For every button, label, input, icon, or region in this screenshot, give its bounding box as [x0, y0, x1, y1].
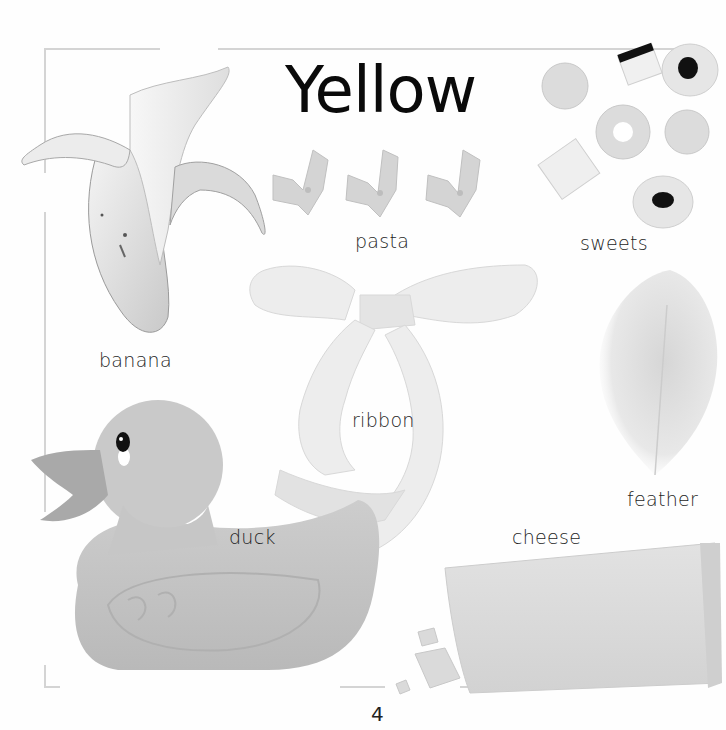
- pasta-label: pasta: [355, 230, 409, 252]
- pasta-icon: [268, 145, 498, 225]
- feather-label: feather: [627, 488, 698, 510]
- duck-label: duck: [229, 526, 276, 548]
- feather-icon: [585, 265, 726, 485]
- cheese-icon: [390, 538, 726, 708]
- page-title: Yellow: [285, 58, 476, 122]
- page-number: 4: [371, 702, 384, 726]
- rubber-duck-icon: [28, 395, 388, 695]
- cheese-label: cheese: [512, 526, 581, 548]
- book-page: Yellow banana pasta: [0, 0, 726, 730]
- sweets-label: sweets: [580, 232, 648, 254]
- banana-icon: [10, 55, 270, 345]
- banana-label: banana: [99, 349, 172, 371]
- sweets-icon: [530, 35, 726, 230]
- frame-top-left: [45, 48, 160, 50]
